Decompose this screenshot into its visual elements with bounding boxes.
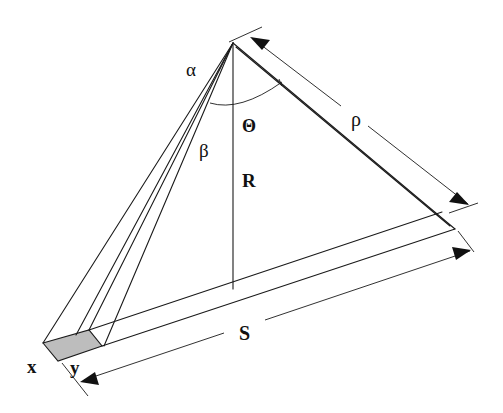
rho-arrowhead-top [250, 37, 270, 50]
label-rho: ρ [351, 108, 361, 131]
S-dimension [62, 231, 474, 396]
label-S: S [239, 322, 250, 344]
geometry-diagram: α β Θ R ρ S x y [0, 0, 503, 413]
ground-strip [89, 212, 455, 346]
rho-arrowhead-bottom [449, 192, 469, 205]
S-arrowhead-left [80, 372, 99, 385]
label-beta: β [199, 140, 209, 161]
label-theta: Θ [242, 116, 256, 136]
beam-rays [43, 43, 233, 346]
label-x: x [27, 356, 37, 377]
label-alpha: α [186, 59, 196, 80]
label-R: R [242, 170, 256, 191]
S-arrowhead-right [452, 247, 471, 260]
slant-range-line [233, 43, 455, 229]
label-y: y [70, 357, 80, 378]
theta-arc [210, 82, 282, 105]
